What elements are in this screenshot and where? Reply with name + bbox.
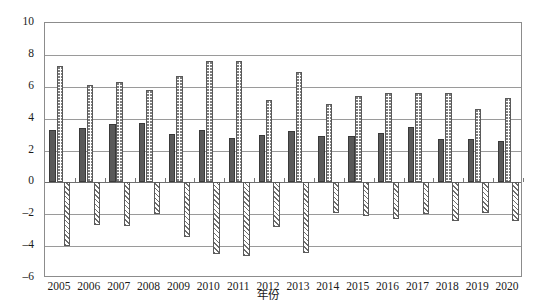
bar [348, 136, 354, 182]
bar [57, 66, 63, 182]
y-tick-label: 0 [28, 176, 34, 188]
bar [116, 82, 122, 182]
bar [482, 182, 488, 212]
bar [213, 182, 219, 254]
bar [438, 139, 444, 182]
gridline [45, 246, 521, 247]
gridline [45, 55, 521, 56]
bar [243, 182, 249, 255]
bar [64, 182, 70, 246]
bar [475, 109, 481, 182]
y-axis: 1086420–2–4–6 [0, 0, 40, 305]
bar [408, 127, 414, 183]
y-tick-label: –6 [23, 271, 35, 283]
bar [94, 182, 100, 225]
y-tick-label: 10 [23, 16, 35, 28]
axis-tick [75, 178, 76, 182]
bar [139, 123, 145, 183]
axis-tick [165, 178, 166, 182]
bar [452, 182, 458, 220]
bar [326, 104, 332, 182]
axis-tick [105, 178, 106, 182]
axis-tick [135, 178, 136, 182]
axis-tick [314, 178, 315, 182]
bar [236, 61, 242, 182]
axis-tick [284, 178, 285, 182]
bar [79, 128, 85, 182]
bar [87, 85, 93, 182]
bar [393, 182, 399, 219]
bar [498, 141, 504, 182]
y-tick-label: 8 [28, 48, 34, 60]
bar [423, 182, 429, 214]
bar [288, 131, 294, 183]
zero-baseline [45, 182, 521, 183]
y-tick-label: 4 [28, 112, 34, 124]
bar [259, 135, 265, 183]
axis-tick [404, 178, 405, 182]
axis-tick [523, 178, 524, 182]
bar [415, 93, 421, 182]
bar [385, 93, 391, 182]
y-tick-label: 2 [28, 144, 34, 156]
y-tick-label: –4 [23, 239, 35, 251]
bar [124, 182, 130, 226]
bar [176, 76, 182, 182]
bar [49, 130, 55, 183]
x-axis-title: 年份 [0, 288, 535, 302]
bar [303, 182, 309, 252]
y-tick-label: 6 [28, 80, 34, 92]
axis-tick [493, 178, 494, 182]
y-tick-label: –2 [23, 208, 35, 220]
bar [468, 139, 474, 182]
bar [199, 130, 205, 183]
bar-chart: 1086420–2–4–6 20052006200720082009201020… [0, 0, 535, 305]
axis-tick [433, 178, 434, 182]
bar [229, 138, 235, 183]
bar [154, 182, 160, 214]
bar [445, 93, 451, 182]
axis-tick [463, 178, 464, 182]
bar [184, 182, 190, 236]
bar [363, 182, 369, 215]
bar [512, 182, 518, 220]
bar [273, 182, 279, 227]
gridline [45, 214, 521, 215]
bar [146, 90, 152, 182]
bar [505, 98, 511, 182]
bar [355, 96, 361, 182]
axis-tick [344, 178, 345, 182]
plot-area [44, 22, 522, 277]
bar [109, 124, 115, 182]
bar [378, 133, 384, 182]
bar [333, 182, 339, 212]
axis-tick [374, 178, 375, 182]
bar [266, 100, 272, 183]
bar [296, 72, 302, 183]
axis-tick [224, 178, 225, 182]
axis-tick [254, 178, 255, 182]
bar [169, 134, 175, 183]
axis-tick [194, 178, 195, 182]
bar [206, 61, 212, 182]
bar [318, 136, 324, 182]
